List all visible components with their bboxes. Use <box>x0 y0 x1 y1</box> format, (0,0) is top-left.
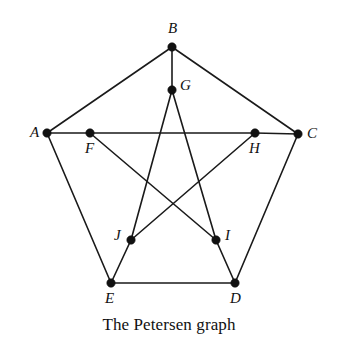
graph-vertex-g <box>168 86 176 94</box>
graph-vertex-e <box>107 279 115 287</box>
graph-canvas <box>0 0 338 349</box>
graph-vertex-b <box>168 43 176 51</box>
graph-edge-e-a <box>47 133 111 283</box>
graph-vertex-d <box>231 279 239 287</box>
graph-vertex-f <box>86 129 94 137</box>
vertex-label-j: J <box>114 228 121 243</box>
graph-edge-g-j <box>131 90 172 240</box>
graph-edge-c-h <box>255 133 298 134</box>
vertex-label-g: G <box>180 78 191 93</box>
graph-edge-d-i <box>216 240 235 283</box>
graph-edge-a-b <box>47 47 172 133</box>
vertex-label-e: E <box>105 291 114 306</box>
graph-edge-i-g <box>172 90 216 240</box>
vertex-label-h: H <box>249 141 260 156</box>
figure-caption: The Petersen graph <box>0 315 338 335</box>
vertex-label-c: C <box>307 126 317 141</box>
petersen-graph-figure: ABCDEFGHIJ The Petersen graph <box>0 0 338 349</box>
vertex-label-d: D <box>230 291 241 306</box>
graph-edge-f-i <box>90 133 216 240</box>
graph-edge-c-d <box>235 134 298 283</box>
graph-edge-j-h <box>131 133 255 240</box>
vertex-label-a: A <box>30 125 39 140</box>
graph-vertex-a <box>43 129 51 137</box>
graph-vertex-h <box>251 129 259 137</box>
vertex-label-i: I <box>225 228 230 243</box>
graph-vertex-i <box>212 236 220 244</box>
graph-vertex-j <box>127 236 135 244</box>
edge-group <box>47 47 298 283</box>
graph-edge-e-j <box>111 240 131 283</box>
graph-vertex-c <box>294 130 302 138</box>
vertex-label-b: B <box>168 21 177 36</box>
vertex-label-f: F <box>85 141 94 156</box>
